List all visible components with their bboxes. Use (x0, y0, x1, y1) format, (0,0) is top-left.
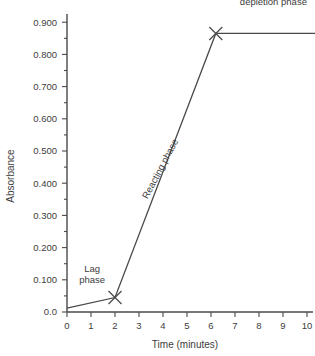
x-axis-tick-label: 5 (184, 320, 189, 331)
chart-svg: 0.00.1000.2000.3000.4000.5000.6000.7000.… (0, 0, 315, 356)
absorbance-time-chart: 0.00.1000.2000.3000.4000.5000.6000.7000.… (0, 0, 315, 356)
y-axis-tick-label: 0.200 (33, 242, 57, 253)
y-axis-tick-label: 0.400 (33, 178, 57, 189)
y-axis-tick-label: 0.0 (44, 306, 57, 317)
y-axis-tick-label: 0.800 (33, 49, 57, 60)
x-axis-tick-label: 2 (112, 320, 117, 331)
annotation-substrate-depletion-phase: Substratedepletion phase (240, 0, 307, 7)
y-axis-tick-label: 0.900 (33, 17, 57, 28)
y-axis-tick-label: 0.700 (33, 81, 57, 92)
annotation-line: phase (79, 274, 105, 285)
y-axis-tick-label: 0.500 (33, 145, 57, 156)
y-axis-tick-label: 0.100 (33, 274, 57, 285)
x-axis-tick-label: 1 (88, 320, 93, 331)
x-axis-tick-label: 6 (208, 320, 213, 331)
annotation-line: Lag (84, 263, 100, 274)
y-axis-title: Absorbance (5, 149, 16, 203)
x-axis-tick-label: 9 (280, 320, 285, 331)
x-axis-tick-label: 7 (232, 320, 237, 331)
x-axis-tick-label: 8 (256, 320, 261, 331)
x-axis-tick-label: 0 (64, 320, 69, 331)
y-axis-tick-label: 0.300 (33, 210, 57, 221)
x-axis-tick-label: 4 (160, 320, 165, 331)
x-axis-tick-label: 3 (136, 320, 141, 331)
annotation-line: depletion phase (240, 0, 307, 7)
y-axis-tick-label: 0.600 (33, 113, 57, 124)
x-axis-tick-label: 10 (302, 320, 313, 331)
x-axis-title: Time (minutes) (152, 339, 218, 350)
